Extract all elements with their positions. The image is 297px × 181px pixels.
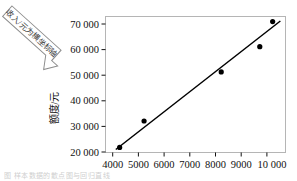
y-tick-label: 30 000 [70,121,99,132]
x-axis-ticks [113,153,267,157]
data-point [257,44,262,49]
y-tick-label: 60 000 [70,44,99,55]
x-tick-label: 10 000 [258,159,287,170]
y-axis-ticks [102,24,106,152]
x-tick-label: 9000 [231,159,252,170]
figure-caption: 图 样本数据的散点图与回归直线 [4,172,294,180]
y-tick-label: 70 000 [70,19,99,30]
callout-arrow: 收入/元为横坐标轴 [0,6,67,75]
x-axis-tick-labels: 4000 5000 6000 7000 8000 9000 10 000 [102,159,286,170]
x-tick-label: 5000 [128,159,149,170]
y-tick-label: 40 000 [70,95,99,106]
x-tick-label: 4000 [102,159,123,170]
callout-arrow-label: 收入/元为横坐标轴 [4,7,60,59]
data-point [117,145,122,150]
y-tick-label: 50 000 [70,70,99,81]
data-point [270,19,275,24]
x-tick-label: 6000 [154,159,175,170]
plot-frame [106,17,286,153]
y-tick-label: 20 000 [70,147,99,158]
x-tick-label: 7000 [179,159,200,170]
x-tick-label: 8000 [205,159,226,170]
y-axis-tick-labels: 70 000 60 000 50 000 40 000 30 000 20 00… [70,19,99,158]
data-point [141,118,146,123]
scatter-chart-figure: 70 000 60 000 50 000 40 000 30 000 20 00… [0,0,297,181]
data-point [219,69,224,74]
y-axis-title: 额度/元 [48,92,60,125]
